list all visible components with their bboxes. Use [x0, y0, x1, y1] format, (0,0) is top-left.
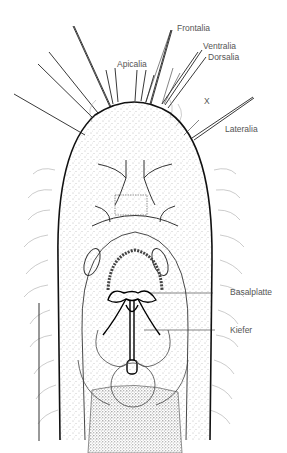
label-x: X: [204, 97, 210, 106]
label-lateralia: Lateralia: [225, 125, 258, 134]
label-ventralia: Ventralia: [203, 42, 236, 51]
label-kiefer: Kiefer: [230, 326, 252, 335]
label-basalplatte: Basalplatte: [230, 288, 272, 297]
figure: Frontalia Ventralia Dorsalia Apicalia X …: [0, 0, 287, 453]
label-frontalia: Frontalia: [177, 24, 210, 33]
label-dorsalia: Dorsalia: [208, 53, 239, 62]
label-apicalia: Apicalia: [117, 60, 147, 69]
gut: [88, 385, 182, 453]
